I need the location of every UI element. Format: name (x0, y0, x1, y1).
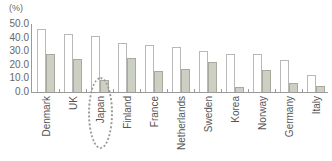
bar-norway-series-1 (253, 54, 262, 92)
bar-uk-series-2 (73, 59, 82, 92)
bar-germany-series-2 (289, 83, 298, 92)
bar-netherlands-series-1 (172, 47, 181, 92)
bar-denmark-series-1 (37, 29, 46, 92)
bar-germany-series-1 (280, 60, 289, 92)
y-tick-label: 0.0 (2, 87, 29, 97)
y-axis-unit: (%) (9, 3, 23, 13)
y-tick-label: 30.0 (2, 46, 29, 56)
bar-france-series-2 (154, 71, 163, 92)
x-label-finland: Finland (122, 96, 133, 161)
bar-france-series-1 (145, 45, 154, 92)
bar-finland-series-1 (118, 43, 127, 92)
x-tick (140, 89, 141, 92)
bar-italy-series-1 (307, 75, 316, 92)
x-label-italy: Italy (311, 96, 322, 161)
bar-korea-series-2 (235, 87, 244, 92)
x-tick (59, 89, 60, 92)
y-tick-label: 10.0 (2, 73, 29, 83)
x-label-germany: Germany (284, 96, 295, 161)
y-axis-line (31, 24, 32, 92)
x-tick (194, 89, 195, 92)
x-label-france: France (149, 96, 160, 161)
bar-norway-series-2 (262, 70, 271, 92)
bar-chart: (%) 50.040.030.020.010.00.0 DenmarkUKJap… (0, 0, 332, 161)
bar-denmark-series-2 (46, 54, 55, 92)
x-tick (86, 89, 87, 92)
y-tick-label: 50.0 (2, 19, 29, 29)
x-label-sweden: Sweden (203, 96, 214, 161)
bar-netherlands-series-2 (181, 69, 190, 92)
x-label-uk: UK (68, 96, 79, 161)
bar-italy-series-2 (316, 86, 325, 92)
x-label-norway: Norway (257, 96, 268, 161)
x-tick (302, 89, 303, 92)
x-label-korea: Korea (230, 96, 241, 161)
y-tick-label: 20.0 (2, 60, 29, 70)
bar-korea-series-1 (226, 54, 235, 92)
bar-finland-series-2 (127, 58, 136, 92)
japan-highlight-ellipse (88, 77, 113, 149)
y-tick-label: 40.0 (2, 33, 29, 43)
x-label-netherlands: Netherlands (176, 96, 187, 161)
x-axis-line (31, 92, 328, 93)
x-label-denmark: Denmark (41, 96, 52, 161)
x-tick (167, 89, 168, 92)
x-tick (248, 89, 249, 92)
bar-sweden-series-2 (208, 62, 217, 92)
bar-sweden-series-1 (199, 51, 208, 92)
x-tick (113, 89, 114, 92)
bar-uk-series-1 (64, 34, 73, 92)
x-tick (221, 89, 222, 92)
x-tick (275, 89, 276, 92)
